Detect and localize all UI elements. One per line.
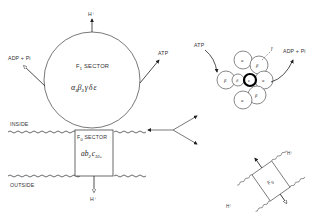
- top-view-adp-arrow: [271, 60, 293, 82]
- top-view-atp-label: ATP: [194, 42, 205, 48]
- top-view-atp-arrow: [205, 50, 217, 72]
- atp-label: ATP: [158, 50, 169, 56]
- inside-label: INSIDE: [10, 121, 29, 127]
- outside-label: OUTSIDE: [10, 182, 35, 188]
- adp-arrow: [24, 66, 45, 86]
- tilted-bottom-proton-label: H⁺: [226, 204, 233, 209]
- top-proton-label: H⁺: [88, 11, 95, 17]
- adp-label: ADP + Pi: [8, 55, 31, 61]
- tilted-f0: F0: [230, 141, 311, 214]
- top-view-adp-label: ADP + Pi: [283, 48, 306, 54]
- atp-synthase-diagram: H⁺ ADP + Pi ATP F1 SECTOR α3β3γδε F0 SEC…: [0, 0, 319, 214]
- f1-composition: α3β3γδε: [71, 83, 98, 93]
- atp-arrow: [140, 60, 159, 83]
- f1-sector-circle: [44, 32, 140, 128]
- svg-text:ε: ε: [248, 78, 250, 83]
- gamma-label: γ: [271, 45, 273, 50]
- bottom-proton-label: H⁺: [90, 196, 97, 202]
- view-pointer-arrows: [148, 116, 197, 144]
- tilted-top-proton-label: H⁺: [287, 151, 294, 156]
